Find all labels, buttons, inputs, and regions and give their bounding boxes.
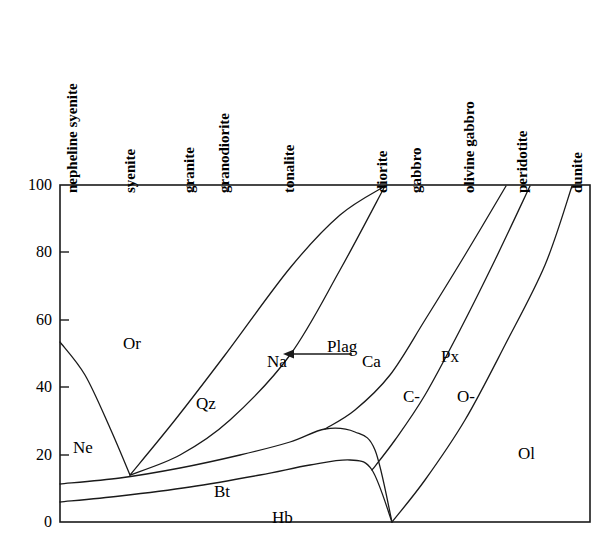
- field-label-C: C-: [403, 387, 420, 407]
- y-tick-label-40: 40: [0, 378, 52, 396]
- boundary-curve-px-olivine: [392, 186, 572, 522]
- boundary-curve-nepheline-upper: [60, 342, 130, 475]
- na-endmember-label: Na: [267, 352, 287, 372]
- field-label-Ol: Ol: [518, 444, 535, 464]
- x-axis-label-tonalite: tonalite: [282, 145, 297, 193]
- x-axis-label-gabbro: gabbro: [409, 147, 424, 193]
- field-label-Or: Or: [123, 334, 141, 354]
- y-tick-label-100: 100: [0, 176, 52, 194]
- x-axis-label-dunite: dunite: [570, 152, 585, 193]
- igneous-rock-mineralogy-chart: nepheline syenitesyenitegranitegranodior…: [0, 0, 616, 555]
- y-axis-ticks: [60, 252, 69, 455]
- x-axis-label-granodiorite: granodiorite: [217, 113, 232, 193]
- field-label-Qz: Qz: [196, 394, 216, 414]
- x-axis-label-diorite: diorite: [375, 151, 390, 194]
- x-axis-label-peridotite: peridotite: [515, 131, 530, 193]
- field-label-O: O-: [457, 387, 475, 407]
- y-tick-label-60: 60: [0, 311, 52, 329]
- y-tick-label-20: 20: [0, 446, 52, 464]
- field-label-Hb: Hb: [272, 508, 293, 528]
- chart-canvas: [0, 0, 616, 555]
- x-axis-label-syenite: syenite: [123, 149, 138, 193]
- boundary-curve-biotite-upper: [60, 428, 392, 522]
- ca-endmember-label: Ca: [362, 352, 381, 372]
- x-axis-label-granite: granite: [182, 147, 197, 193]
- x-axis-label-olivine-gabbro: olivine gabbro: [462, 101, 477, 193]
- field-label-Px: Px: [441, 347, 459, 367]
- boundary-curve-cpx-opx: [372, 186, 530, 470]
- x-axis-label-nepheline-syenite: nepheline syenite: [65, 83, 80, 193]
- y-tick-label-80: 80: [0, 243, 52, 261]
- boundary-curve-orthoclase-quartz: [130, 186, 385, 475]
- y-tick-label-0: 0: [0, 513, 52, 531]
- boundary-curve-quartz-plagioclase: [130, 186, 385, 475]
- field-label-Bt: Bt: [214, 482, 230, 502]
- field-label-Ne: Ne: [73, 438, 93, 458]
- field-label-Plag: Plag: [327, 337, 357, 357]
